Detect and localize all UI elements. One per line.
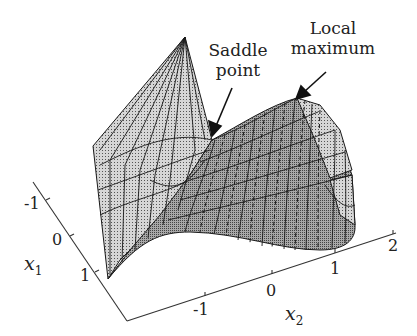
x2-tick-label: 0 xyxy=(266,283,276,299)
saddle-point-label: Saddle point xyxy=(198,40,278,80)
local-maximum-label: Local maximum xyxy=(278,18,388,58)
x1-tick-label: 0 xyxy=(52,232,62,248)
x1-tick-label: 1 xyxy=(80,268,90,284)
x1-axis-label: x1 xyxy=(24,254,42,277)
x2-axis-label: x2 xyxy=(285,304,303,327)
x2-tick-label: 2 xyxy=(388,238,398,254)
figure: Saddle point Local maximum -1 0 1 x1 -1 … xyxy=(0,0,417,336)
x1-tick-label: -1 xyxy=(24,196,40,212)
x2-tick-label: -1 xyxy=(193,302,209,318)
x2-tick-label: 1 xyxy=(330,261,340,277)
